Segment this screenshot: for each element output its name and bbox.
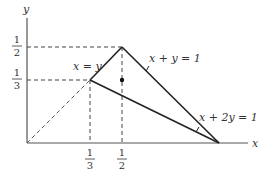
svg-text:1: 1 <box>119 147 125 158</box>
y-tick-half: 1 2 <box>12 34 22 58</box>
svg-text:3: 3 <box>14 80 20 91</box>
label-x-plus-y: x + y = 1 <box>149 52 201 65</box>
x-tick-third: 1 3 <box>85 147 95 171</box>
label-pointer-x-plus-2y <box>196 127 199 132</box>
interior-point <box>120 78 124 82</box>
svg-text:3: 3 <box>87 160 93 171</box>
label-pointer-x-plus-y <box>146 66 149 71</box>
x-axis-label: x <box>252 137 259 150</box>
label-x-eq-y: x = y <box>73 60 102 73</box>
line-x-eq-y-dashed <box>27 80 90 143</box>
svg-text:1: 1 <box>14 67 20 78</box>
svg-text:1: 1 <box>87 147 93 158</box>
svg-text:2: 2 <box>119 160 125 171</box>
svg-text:1: 1 <box>14 34 20 45</box>
x-tick-half: 1 2 <box>117 147 127 171</box>
y-axis-label: y <box>22 3 30 16</box>
y-tick-third: 1 3 <box>12 67 22 91</box>
triangle-region-diagram: y x x = y x + y = 1 x + 2y = 1 1 2 1 3 1… <box>0 0 275 180</box>
label-x-plus-2y: x + 2y = 1 <box>199 111 258 124</box>
svg-text:2: 2 <box>14 47 20 58</box>
